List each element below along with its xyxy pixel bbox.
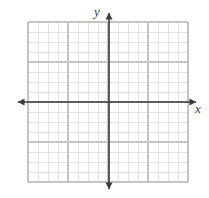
- y-axis-label: y: [92, 4, 100, 19]
- coordinate-plane-svg: x y: [0, 0, 209, 198]
- coordinate-plane-figure: x y: [0, 0, 209, 198]
- x-axis-label: x: [194, 101, 201, 116]
